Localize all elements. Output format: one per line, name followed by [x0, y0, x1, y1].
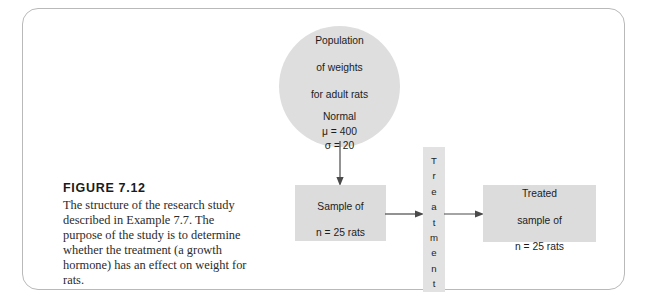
figure-caption-title: FIGURE 7.12: [63, 181, 253, 195]
treated-line-1: Treated: [522, 188, 557, 199]
sample-box-text: Sample of n = 25 rats: [316, 186, 365, 240]
treated-line-3: n = 25 rats: [515, 241, 564, 252]
arrow-population-to-sample-icon: [333, 141, 347, 187]
treatment-char-5: m: [430, 230, 438, 245]
treatment-char-6: e: [431, 245, 436, 260]
treatment-char-3: a: [431, 199, 436, 214]
figure-caption-body: The structure of the research study desc…: [63, 198, 253, 289]
population-distribution: Normal: [323, 110, 356, 123]
treatment-char-8: t: [433, 276, 436, 291]
treatment-char-1: r: [432, 168, 435, 183]
treatment-char-2: e: [431, 184, 436, 199]
treated-line-2: sample of: [517, 215, 562, 226]
population-line-3: for adult rats: [311, 89, 368, 100]
treatment-char-7: n: [431, 261, 436, 276]
arrow-sample-to-treatment-icon: [385, 207, 425, 221]
population-circle: Population of weights for adult rats Nor…: [279, 26, 400, 147]
treatment-column: Treatment: [423, 147, 445, 292]
population-circle-heading: Population of weights for adult rats: [311, 21, 368, 101]
sample-line-1: Sample of: [317, 201, 363, 212]
population-mu: μ = 400: [322, 125, 357, 138]
sample-box: Sample of n = 25 rats: [295, 185, 386, 241]
population-line-2: of weights: [316, 62, 362, 73]
population-line-1: Population: [315, 35, 364, 46]
treated-sample-box: Treated sample of n = 25 rats: [483, 185, 596, 242]
treatment-char-0: T: [431, 153, 437, 168]
sample-line-2: n = 25 rats: [316, 227, 365, 238]
treated-sample-text: Treated sample of n = 25 rats: [515, 173, 564, 253]
figure-caption: FIGURE 7.12 The structure of the researc…: [63, 181, 253, 289]
treatment-char-4: t: [433, 215, 436, 230]
arrow-treatment-to-treated-icon: [444, 207, 485, 221]
figure-frame: Population of weights for adult rats Nor…: [22, 8, 625, 290]
